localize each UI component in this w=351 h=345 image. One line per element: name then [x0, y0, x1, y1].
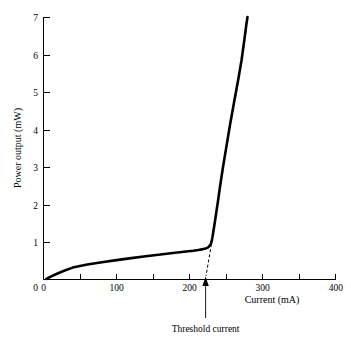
x-axis-group: 0 100 200 300 400 Current (mA)	[41, 274, 343, 306]
x-tick-label-400: 400	[329, 283, 344, 293]
y-axis-group: 7 6 5 4 3 2 1 0 Power output (mW)	[12, 13, 50, 293]
x-tick-label-200: 200	[182, 283, 197, 293]
threshold-current-label: Threshold current	[172, 324, 240, 334]
x-axis-title: Current (mA)	[245, 294, 300, 306]
y-tick-label-5: 5	[33, 88, 38, 98]
figure-container: 7 6 5 4 3 2 1 0 Power output (mW) 0	[0, 0, 351, 345]
y-tick-label-7: 7	[33, 13, 38, 23]
power-current-chart: 7 6 5 4 3 2 1 0 Power output (mW) 0	[0, 0, 351, 345]
y-tick-label-3: 3	[33, 163, 38, 173]
data-series-group	[46, 17, 247, 279]
y-tick-label-6: 6	[33, 51, 38, 61]
x-tick-label-0: 0	[41, 283, 46, 293]
y-tick-label-0: 0	[33, 283, 38, 293]
y-tick-label-1: 1	[33, 238, 38, 248]
power-output-curve	[46, 17, 247, 279]
y-tick-label-4: 4	[33, 126, 38, 136]
y-tick-label-2: 2	[33, 201, 38, 211]
x-tick-label-300: 300	[256, 283, 271, 293]
threshold-arrow-head	[202, 277, 208, 287]
y-axis-title: Power output (mW)	[12, 108, 24, 188]
x-tick-label-100: 100	[109, 283, 124, 293]
